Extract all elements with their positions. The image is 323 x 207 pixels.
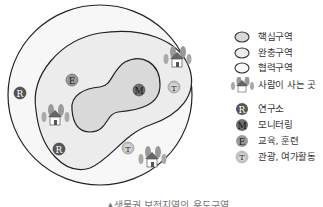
tourism-marker-icon: T	[230, 150, 254, 164]
legend-item-research: R 연구소	[230, 101, 284, 115]
legend-label: 사람이 사는 곳	[258, 77, 316, 91]
settlement-house-icon	[230, 77, 254, 93]
legend-item-buffer-zone: 완충구역	[230, 45, 293, 59]
education-marker-icon: E	[230, 134, 254, 148]
svg-text:R: R	[239, 105, 246, 115]
legend-label: 교육, 훈련	[258, 133, 298, 147]
svg-text:M: M	[237, 121, 246, 131]
legend-item-monitoring: M 모니터링	[230, 117, 293, 131]
svg-text:T: T	[239, 153, 245, 162]
research-marker-icon: R	[230, 102, 254, 116]
legend-label: 핵심구역	[258, 29, 293, 43]
legend-item-transition-zone: 협력구역	[230, 60, 293, 74]
legend-item-settlement: 사람이 사는 곳	[230, 77, 316, 91]
core-zone-oval-icon	[230, 30, 254, 44]
research-marker: R	[53, 143, 65, 155]
monitoring-marker-icon: M	[230, 118, 254, 132]
education-marker: E	[66, 74, 78, 86]
legend-item-education: E 교육, 훈련	[230, 133, 298, 147]
svg-text:T: T	[171, 84, 177, 93]
svg-text:R: R	[17, 89, 24, 99]
svg-text:R: R	[56, 145, 63, 155]
legend-label: 관광, 여가활동	[258, 149, 316, 163]
research-marker: R	[14, 87, 26, 99]
svg-text:E: E	[69, 76, 76, 86]
figure-caption: ▲생물권 보전지역의 용도구역	[80, 199, 255, 207]
svg-text:E: E	[239, 137, 246, 147]
transition-zone-oval-icon	[230, 61, 254, 75]
legend-label: 완충구역	[258, 45, 293, 59]
tourism-marker: T	[122, 142, 134, 154]
monitoring-marker: M	[133, 84, 145, 96]
svg-text:M: M	[134, 86, 143, 96]
legend-label: 협력구역	[258, 60, 293, 74]
legend-item-core-zone: 핵심구역	[230, 29, 293, 43]
zonation-diagram: R E M T R T	[0, 0, 230, 207]
legend-label: 연구소	[258, 101, 284, 115]
tourism-marker: T	[168, 81, 180, 93]
svg-text:T: T	[125, 145, 131, 154]
buffer-zone-oval-icon	[230, 46, 254, 60]
legend-item-tourism: T 관광, 여가활동	[230, 149, 316, 163]
legend-label: 모니터링	[258, 117, 293, 131]
